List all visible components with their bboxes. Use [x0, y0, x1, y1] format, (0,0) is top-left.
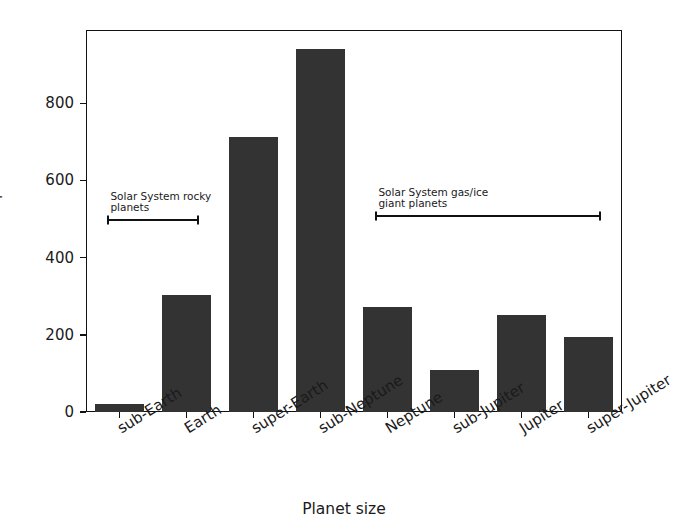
- bar-chart-figure: 0200400600800 Number of planets sub-Eart…: [0, 0, 688, 525]
- annotation-span-bar: [375, 215, 600, 217]
- y-tick-mark: [80, 411, 86, 412]
- y-axis-label: Number of planets: [0, 142, 3, 286]
- bar-sub-neptune: [296, 49, 344, 412]
- annotation-text: Solar System rocky planets: [110, 191, 211, 213]
- annotation-end-cap: [375, 212, 377, 221]
- bar-super-earth: [229, 137, 277, 412]
- y-tick-mark: [80, 103, 86, 104]
- y-tick-label: 0: [24, 403, 74, 421]
- y-tick-label: 600: [24, 171, 74, 189]
- annotation-end-cap: [197, 215, 199, 224]
- y-tick-label: 400: [24, 249, 74, 267]
- annotation-end-cap: [599, 212, 601, 221]
- annotation-end-cap: [107, 215, 109, 224]
- annotation-text: Solar System gas/ice giant planets: [378, 187, 488, 209]
- y-tick-mark: [80, 334, 86, 335]
- y-tick-label: 200: [24, 326, 74, 344]
- y-tick-mark: [80, 180, 86, 181]
- bars-container: [86, 30, 622, 412]
- bar-super-jupiter: [564, 337, 612, 412]
- y-tick-mark: [80, 257, 86, 258]
- annotation-span-bar: [107, 219, 198, 221]
- x-axis-label: Planet size: [302, 500, 386, 518]
- y-tick-label: 800: [24, 94, 74, 112]
